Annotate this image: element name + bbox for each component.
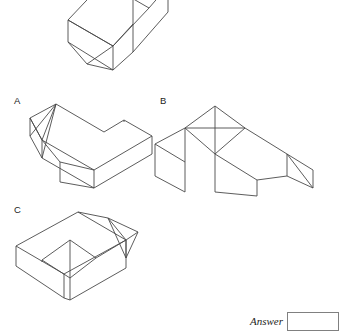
option-c-figure[interactable]: [0, 200, 160, 305]
question-figure: [0, 0, 337, 88]
answer-row: Answer: [250, 310, 339, 332]
option-b-figure[interactable]: [155, 92, 337, 197]
answer-label: Answer: [250, 315, 287, 327]
option-a-figure[interactable]: [0, 92, 160, 197]
answer-input[interactable]: [287, 312, 339, 331]
